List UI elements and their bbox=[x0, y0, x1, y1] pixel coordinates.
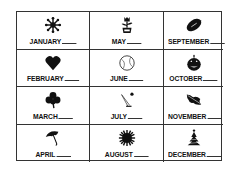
answer-blank[interactable] bbox=[62, 43, 76, 44]
months-worksheet-grid: JANUARY MAY SEPTEMBER FEBRUARY JUNE OCTO… bbox=[16, 11, 222, 161]
month-label: JULY bbox=[94, 112, 160, 121]
month-cell-december: DECEMBER bbox=[164, 125, 223, 163]
answer-blank[interactable] bbox=[207, 156, 221, 157]
month-label: NOVEMBER bbox=[168, 112, 216, 121]
month-label: JANUARY bbox=[21, 37, 86, 46]
answer-blank[interactable] bbox=[207, 118, 221, 119]
month-label: JUNE bbox=[94, 74, 160, 83]
month-cell-october: OCTOBER bbox=[164, 50, 223, 88]
month-label: FEBRUARY bbox=[21, 74, 86, 83]
answer-blank[interactable] bbox=[134, 156, 148, 157]
snowflake-icon bbox=[44, 16, 62, 34]
month-label: SEPTEMBER bbox=[168, 37, 216, 46]
answer-blank[interactable] bbox=[203, 80, 217, 81]
football-icon bbox=[185, 16, 203, 34]
answer-blank[interactable] bbox=[129, 80, 143, 81]
answer-blank[interactable] bbox=[65, 80, 79, 81]
month-label: DECEMBER bbox=[168, 150, 216, 159]
month-cell-september: SEPTEMBER bbox=[164, 12, 223, 50]
umbrella-icon bbox=[44, 129, 62, 147]
month-cell-july: JULY bbox=[90, 87, 164, 125]
sun-icon bbox=[118, 129, 136, 147]
month-cell-january: JANUARY bbox=[17, 12, 90, 50]
shamrock-icon bbox=[44, 91, 62, 109]
month-label: MAY bbox=[94, 37, 160, 46]
answer-blank[interactable] bbox=[128, 118, 142, 119]
firework-icon bbox=[118, 91, 136, 109]
answer-blank[interactable] bbox=[127, 43, 141, 44]
heart-icon bbox=[44, 54, 62, 72]
baseball-icon bbox=[118, 54, 136, 72]
month-label: AUGUST bbox=[94, 150, 160, 159]
jack-o-lantern-icon bbox=[185, 54, 203, 72]
leaf-icon bbox=[185, 91, 203, 109]
month-label: APRIL bbox=[21, 150, 86, 159]
month-cell-february: FEBRUARY bbox=[17, 50, 90, 88]
month-cell-june: JUNE bbox=[90, 50, 164, 88]
month-cell-november: NOVEMBER bbox=[164, 87, 223, 125]
christmas-tree-icon bbox=[185, 129, 203, 147]
month-label: OCTOBER bbox=[167, 74, 220, 83]
answer-blank[interactable] bbox=[59, 118, 73, 119]
month-cell-may: MAY bbox=[90, 12, 164, 50]
month-cell-august: AUGUST bbox=[90, 125, 164, 163]
month-cell-march: MARCH bbox=[17, 87, 90, 125]
answer-blank[interactable] bbox=[56, 156, 70, 157]
month-label: MARCH bbox=[21, 112, 86, 121]
flower-pot-icon bbox=[118, 16, 136, 34]
month-cell-april: APRIL bbox=[17, 125, 90, 163]
answer-blank[interactable] bbox=[210, 43, 224, 44]
